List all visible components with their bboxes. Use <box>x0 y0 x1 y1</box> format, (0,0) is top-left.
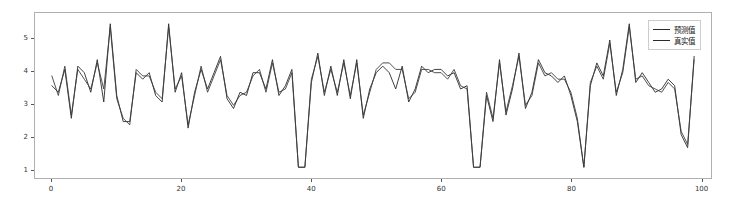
y-tick-label: 4 <box>14 67 28 74</box>
x-tick-mark <box>441 179 442 182</box>
series-group-1 <box>52 27 694 167</box>
legend-label-actual: 真实值 <box>674 35 695 46</box>
y-tick-label: 2 <box>14 133 28 140</box>
y-tick-label: 1 <box>14 166 28 173</box>
series-line-actual <box>52 27 694 167</box>
x-tick-label: 40 <box>307 186 316 193</box>
y-tick-label: 5 <box>14 34 28 41</box>
legend-swatch-actual <box>653 40 670 41</box>
legend-entry-actual: 真实值 <box>653 35 695 46</box>
x-tick-mark <box>51 179 52 182</box>
figure: 预测值 真实值 12345 020406080100 <box>0 0 729 209</box>
x-tick-label: 80 <box>567 186 576 193</box>
x-tick-mark <box>571 179 572 182</box>
y-tick-mark <box>31 170 34 171</box>
legend-label-predicted: 预测值 <box>674 24 695 35</box>
y-tick-mark <box>31 71 34 72</box>
plot-area: 预测值 真实值 <box>34 12 712 179</box>
legend: 预测值 真实值 <box>648 20 701 50</box>
y-tick-mark <box>31 104 34 105</box>
y-tick-mark <box>31 38 34 39</box>
x-tick-mark <box>311 179 312 182</box>
y-tick-mark <box>31 137 34 138</box>
x-tick-mark <box>702 179 703 182</box>
x-tick-label: 100 <box>695 186 708 193</box>
legend-entry-predicted: 预测值 <box>653 24 695 35</box>
y-tick-label: 3 <box>14 100 28 107</box>
x-tick-label: 60 <box>437 186 446 193</box>
x-tick-label: 20 <box>177 186 186 193</box>
x-tick-label: 0 <box>49 186 53 193</box>
series-group-0 <box>52 24 694 167</box>
series-line-predicted <box>52 24 694 167</box>
line-chart-svg <box>35 13 711 178</box>
legend-swatch-predicted <box>653 29 670 30</box>
x-tick-mark <box>181 179 182 182</box>
